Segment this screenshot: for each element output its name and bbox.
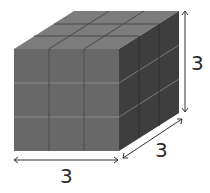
depth-label: 3 [155,138,168,162]
width-label: 3 [60,164,73,188]
cube-diagram: 3 3 3 [0,0,210,193]
width-arrow [14,157,118,163]
cube-front-face [14,49,119,151]
height-label: 3 [191,51,204,75]
height-arrow [182,11,188,112]
